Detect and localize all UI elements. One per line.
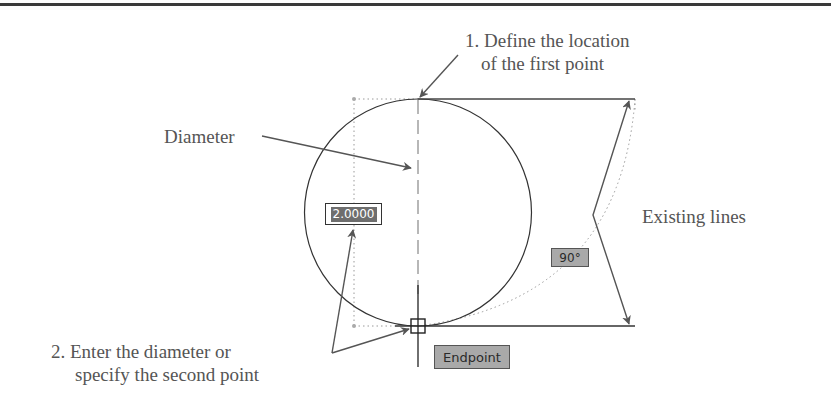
step2-label-line2: specify the second point xyxy=(75,364,259,386)
arrow-existing-lines xyxy=(593,101,629,324)
dynamic-input-diameter[interactable]: 2.0000 xyxy=(325,203,382,225)
step2-label-line1: 2. Enter the diameter or xyxy=(51,341,231,363)
step1-label-line1: 1. Define the location xyxy=(465,30,630,52)
arrow-step2-to-input xyxy=(332,230,353,353)
angle-tooltip: 90° xyxy=(551,248,589,267)
arrow-first-point xyxy=(420,55,458,97)
arrow-diameter xyxy=(262,136,411,168)
arrow-step2-to-point xyxy=(332,329,409,353)
dynamic-input-value: 2.0000 xyxy=(331,207,377,222)
dotted-tracking-lines xyxy=(354,99,635,326)
diameter-label: Diameter xyxy=(164,126,235,148)
step1-label-line2: of the first point xyxy=(481,53,604,75)
osnap-endpoint-tooltip: Endpoint xyxy=(434,345,510,369)
existing-lines-label: Existing lines xyxy=(642,206,746,228)
